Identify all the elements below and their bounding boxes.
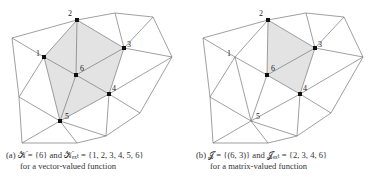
vertex-3 [122,46,126,50]
caption-a-line2: for a vector-valued function [6,161,144,172]
vertex-3 [313,46,317,50]
vertex-label-3: 3 [127,40,131,49]
vertex-5 [58,119,62,123]
caption-a-line1: (a) 𝒦 = {6} and 𝒦ₑₓₜ = {1, 2, 3, 4, 5, 6… [6,150,144,160]
vertex-4 [107,92,111,96]
vertex-label-6: 6 [80,64,84,73]
vertex-label-4: 4 [303,84,307,93]
vertex-label-4: 4 [112,84,116,93]
vertex-2 [75,18,79,22]
vertex-label-3: 3 [318,40,322,49]
shaded-region-b [267,20,315,94]
caption-b-line1: (b) 𝒥 = {(6, 3)} and 𝒥ₑₓₜ = {2, 3, 4, 6} [196,150,327,160]
mesh-panel-a: 1 2 3 4 5 6 [0,0,190,150]
vertex-label-6: 6 [271,64,275,73]
vertex-6 [74,73,78,77]
vertex-label-5: 5 [65,112,69,121]
caption-b-line2: for a matrix-valued function [196,161,327,172]
mesh-panel-b: 1 2 3 4 5 6 [191,0,375,150]
caption-a: (a) 𝒦 = {6} and 𝒦ₑₓₜ = {1, 2, 3, 4, 5, 6… [6,150,144,172]
vertex-2 [266,18,270,22]
vertex-label-2: 2 [68,9,72,18]
vertex-4 [298,92,302,96]
vertex-label-1: 1 [227,49,231,58]
vertex-label-1: 1 [36,49,40,58]
vertex-1 [42,55,46,59]
vertex-label-5: 5 [256,112,260,121]
vertex-6 [265,73,269,77]
vertex-label-2: 2 [259,9,263,18]
caption-b: (b) 𝒥 = {(6, 3)} and 𝒥ₑₓₜ = {2, 3, 4, 6}… [196,150,327,172]
